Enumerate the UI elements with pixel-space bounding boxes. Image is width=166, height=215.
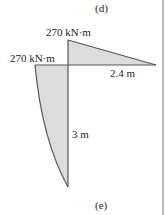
caption-e: (e) (95, 200, 107, 211)
caption-d: (d) (95, 3, 108, 14)
horizontal-length-label: 2.4 m (110, 68, 135, 79)
vertical-length-label: 3 m (72, 129, 89, 140)
moment-left-label: 270 kN·m (10, 53, 55, 64)
moment-top-label: 270 kN·m (46, 27, 91, 38)
vertical-member-moment-area (35, 65, 68, 187)
